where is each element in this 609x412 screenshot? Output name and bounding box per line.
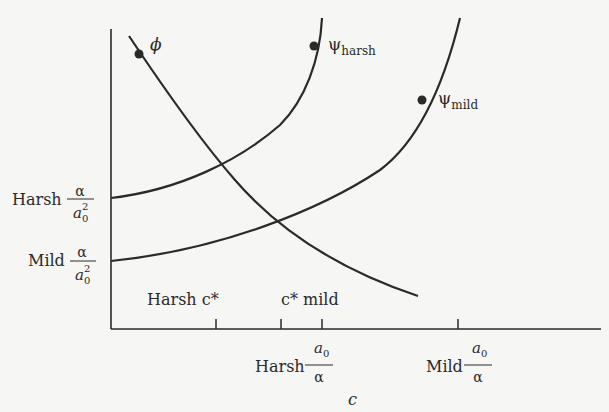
x-axis-title: c [348, 390, 357, 409]
y-label-harsh: Harsh α a0 2 [12, 183, 94, 224]
label-c-star-mild: c* mild [281, 290, 339, 309]
psi-mild-curve [111, 18, 460, 261]
svg-text:a0: a0 [472, 339, 487, 359]
phi-curve [129, 36, 418, 296]
psi-mild-label: ψmild [438, 88, 478, 112]
psi-harsh-marker [310, 42, 319, 51]
x-label-mild-a0-alpha: Mild a0 α [426, 339, 492, 385]
phi-label: ϕ [150, 34, 162, 54]
psi-harsh-curve [111, 18, 322, 198]
phi-marker [135, 50, 144, 59]
diagram-canvas: ϕ ψharsh ψmild Harsh α a0 2 Mild α a0 2 … [0, 0, 609, 412]
x-label-harsh-a0-alpha: Harsh a0 α [255, 339, 333, 385]
psi-mild-marker [418, 96, 427, 105]
y-label-mild: Mild α a0 2 [28, 244, 96, 286]
svg-text:α: α [473, 369, 483, 385]
svg-text:α: α [314, 369, 324, 385]
svg-text:α: α [75, 183, 85, 199]
svg-text:Harsh: Harsh [12, 190, 62, 209]
svg-text:Mild: Mild [28, 251, 65, 270]
svg-text:α: α [77, 244, 87, 260]
label-harsh-c-star: Harsh c* [147, 290, 219, 309]
svg-text:2: 2 [82, 201, 88, 212]
svg-text:a0: a0 [314, 339, 329, 359]
psi-harsh-label: ψharsh [328, 34, 376, 58]
svg-text:2: 2 [84, 263, 90, 274]
svg-text:Mild: Mild [426, 357, 463, 376]
svg-text:Harsh: Harsh [255, 357, 305, 376]
